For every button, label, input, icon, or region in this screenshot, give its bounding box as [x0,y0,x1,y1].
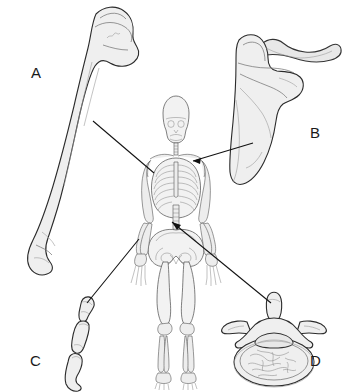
label-b: B [310,125,320,140]
label-c-text: C [30,352,41,369]
leader-arrow-b [193,158,201,164]
leader-line-a [93,121,154,173]
humerus-illustration [28,7,139,275]
scapula-illustration [230,35,341,185]
vertebra-illustration [222,292,327,387]
skeleton-illustration [131,96,221,390]
label-d-text: D [310,352,321,369]
phalanges-illustration [65,297,94,391]
label-c: C [30,353,41,368]
label-d: D [310,353,321,368]
label-a-text: A [31,64,41,81]
label-a: A [31,65,41,80]
leader-line-c [87,239,139,303]
figure-canvas [0,0,348,392]
bone-classification-figure: A B C D [0,0,348,392]
label-b-text: B [310,124,320,141]
